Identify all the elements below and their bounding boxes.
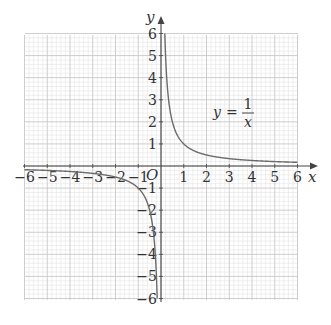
curve-branch [165, 34, 298, 163]
equation-lhs: y [212, 104, 222, 120]
x-axis-label: x [308, 168, 317, 186]
x-tick-label: −6 [14, 169, 35, 185]
x-tick-label: 4 [248, 169, 257, 185]
y-tick-label: 4 [148, 70, 157, 86]
x-tick-label: 6 [293, 169, 302, 185]
x-tick-label: 5 [270, 169, 279, 185]
y-tick-label: −2 [136, 202, 157, 218]
y-tick-label: 6 [148, 26, 157, 42]
y-tick-label: 2 [148, 114, 157, 130]
equation-annotation: y = 1 x [212, 96, 254, 130]
x-tick-label: 3 [225, 169, 234, 185]
y-tick-label: −4 [136, 246, 157, 262]
origin-label: O [146, 166, 158, 184]
y-tick-label: −6 [136, 291, 157, 307]
y-tick-label: 5 [148, 48, 157, 64]
equation-equals: = [226, 104, 238, 120]
graph-canvas: −6−5−4−3−2−1123456−6−5−4−3−2−1123456 x y… [0, 0, 331, 325]
y-tick-label: 1 [148, 136, 157, 152]
equation-denominator: x [244, 114, 252, 130]
y-tick-label: 3 [148, 92, 157, 108]
y-axis-arrow-icon [158, 16, 165, 24]
axes [23, 16, 318, 302]
y-axis-label: y [145, 8, 155, 26]
x-tick-label: 1 [179, 169, 188, 185]
y-tick-label: −5 [136, 268, 157, 284]
x-tick-label: −3 [82, 169, 103, 185]
equation-numerator: 1 [244, 96, 253, 112]
x-tick-label: 2 [202, 169, 211, 185]
